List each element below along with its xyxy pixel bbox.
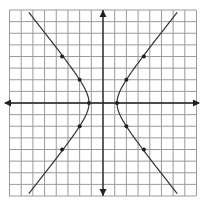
point-marker <box>142 55 146 59</box>
hyperbola-figure <box>0 0 203 206</box>
point-marker <box>78 78 82 82</box>
arrow-up-icon <box>100 10 107 17</box>
point-marker <box>115 101 119 105</box>
point-marker <box>142 148 146 152</box>
arrow-left-icon <box>4 100 11 107</box>
point-marker <box>60 55 64 59</box>
point-marker <box>124 124 128 128</box>
arrow-down-icon <box>100 189 107 196</box>
point-marker <box>60 148 64 152</box>
axes <box>4 10 200 196</box>
point-marker <box>87 101 91 105</box>
coordinate-plane <box>0 0 203 206</box>
point-marker <box>124 78 128 82</box>
point-marker <box>78 124 82 128</box>
